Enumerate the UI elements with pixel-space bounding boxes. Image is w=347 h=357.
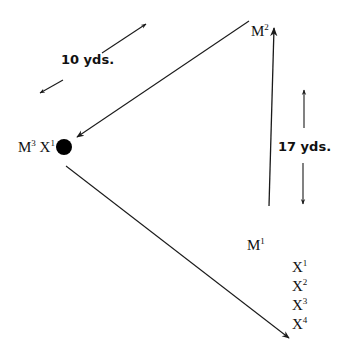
label-x1-base: X	[40, 139, 51, 155]
label-m2: M2	[251, 23, 269, 39]
x-list-item: X4	[292, 316, 307, 335]
distance-label-17yds: 17 yds.	[278, 140, 331, 153]
dimension-10yds-arrow-lower	[40, 80, 63, 93]
x-list-item-sup: 4	[303, 315, 308, 325]
label-m2-sup: 2	[264, 22, 269, 32]
label-m2-base: M	[251, 23, 264, 39]
x-list-item: X2	[292, 278, 307, 297]
label-m1: M1	[247, 237, 265, 253]
distance-label-10yds: 10 yds.	[61, 53, 114, 66]
label-m3-sup: 3	[31, 138, 36, 148]
label-m3-x1: M3 X1	[18, 139, 55, 155]
x-list-item-base: X	[292, 297, 303, 313]
label-m1-base: M	[247, 237, 260, 253]
dimension-10yds-arrow-upper	[102, 24, 146, 53]
x-list-item-base: X	[292, 278, 303, 294]
x-list-item: X3	[292, 297, 307, 316]
x-list-item-sup: 3	[303, 296, 308, 306]
x-position-list: X1 X2 X3 X4	[292, 259, 307, 335]
x-list-item-base: X	[292, 316, 303, 332]
x-list-item-sup: 1	[303, 258, 308, 268]
x-list-item-base: X	[292, 259, 303, 275]
path-m2-to-m3-arrow	[77, 21, 249, 137]
x-list-item-sup: 2	[303, 277, 308, 287]
x-list-item: X1	[292, 259, 307, 278]
label-m3-base: M	[18, 139, 31, 155]
label-x1-sup: 1	[50, 138, 55, 148]
label-m1-sup: 1	[260, 236, 265, 246]
position-marker-dot	[56, 139, 72, 155]
path-m1-to-m2-arrow	[269, 28, 274, 206]
